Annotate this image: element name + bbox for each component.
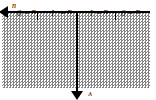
u-axis-arrowhead-icon xyxy=(0,6,8,18)
v-axis-line xyxy=(76,12,78,94)
u-axis-label: u xyxy=(12,2,16,10)
v-axis-label: v xyxy=(88,90,92,98)
u-axis-tick-mark xyxy=(37,12,38,20)
u-axis-tick-label: u = 1 xyxy=(89,8,108,17)
u-axis-tick-label: u = 0 xyxy=(121,8,140,17)
u-axis-tick-mark xyxy=(76,12,77,20)
u-axis-tick-mark xyxy=(115,12,116,20)
u-axis-tick-label: u = -1 xyxy=(51,8,72,17)
u-axis-tick-label: u = 0 xyxy=(17,8,36,17)
v-axis-arrowhead-icon xyxy=(71,91,83,100)
figure-stage: u = 0 u = 1 u = -1 u = 0 u v xyxy=(0,0,156,100)
figure-canvas: u = 0 u = 1 u = -1 u = 0 u v xyxy=(0,0,156,100)
